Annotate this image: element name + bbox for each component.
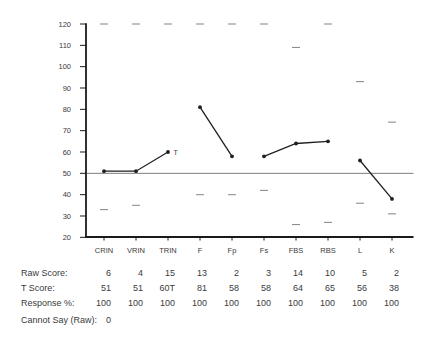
table-cell: 100 xyxy=(341,297,367,309)
table-cell: 0 xyxy=(85,314,111,326)
table-cell: 56 xyxy=(341,282,367,294)
table-cell: 15 xyxy=(149,267,175,279)
table-cell: 65 xyxy=(309,282,335,294)
table-cell: 4 xyxy=(117,267,143,279)
table-cell: 3 xyxy=(245,267,271,279)
table-cell: 2 xyxy=(373,267,399,279)
row-label: T Score: xyxy=(21,282,55,294)
table-row-response-pct: Response %: 1001001001001001001001001001… xyxy=(0,297,434,309)
score-table: Raw Score: 64151323141052 T Score: 51516… xyxy=(0,0,434,338)
table-cell: 100 xyxy=(277,297,303,309)
row-label: Response %: xyxy=(21,297,75,309)
table-cell: 58 xyxy=(213,282,239,294)
table-cell: 58 xyxy=(245,282,271,294)
table-cell: 60T xyxy=(149,282,175,294)
table-cell: 100 xyxy=(117,297,143,309)
table-cell: 13 xyxy=(181,267,207,279)
table-cell: 14 xyxy=(277,267,303,279)
validity-profile-page: 2030405060708090100110120CRINVRINTRINFFp… xyxy=(0,0,434,338)
table-cell: 100 xyxy=(213,297,239,309)
table-cell: 100 xyxy=(149,297,175,309)
table-row-t-score: T Score: 515160T81585864655638 xyxy=(0,282,434,294)
table-cell: 6 xyxy=(85,267,111,279)
row-label: Raw Score: xyxy=(21,267,68,279)
table-cell: 100 xyxy=(181,297,207,309)
table-cell: 2 xyxy=(213,267,239,279)
table-cell: 64 xyxy=(277,282,303,294)
table-cell: 100 xyxy=(245,297,271,309)
table-cell: 100 xyxy=(309,297,335,309)
table-cell: 38 xyxy=(373,282,399,294)
table-cell: 100 xyxy=(373,297,399,309)
table-cell: 51 xyxy=(85,282,111,294)
table-cell: 100 xyxy=(85,297,111,309)
table-cell: 51 xyxy=(117,282,143,294)
table-cell: 10 xyxy=(309,267,335,279)
table-cell: 5 xyxy=(341,267,367,279)
table-row-raw-score: Raw Score: 64151323141052 xyxy=(0,267,434,279)
table-row-cannot-say: Cannot Say (Raw): 0 xyxy=(0,314,434,326)
table-cell: 81 xyxy=(181,282,207,294)
